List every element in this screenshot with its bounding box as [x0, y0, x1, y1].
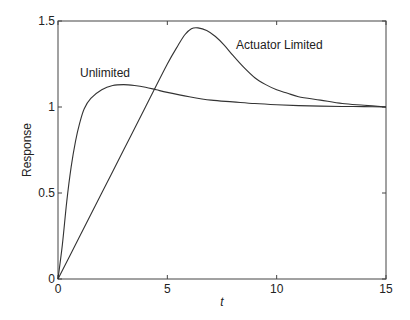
x-axis-label: t [220, 295, 224, 309]
response-chart: 05101500.511.5 Unlimited Actuator Limite… [0, 0, 410, 320]
plot-frame [58, 21, 386, 279]
y-tick-label: 1 [48, 100, 55, 114]
x-tick-label: 10 [270, 282, 284, 296]
x-tick-label: 0 [55, 282, 62, 296]
x-tick-label: 15 [379, 282, 393, 296]
axis-ticks: 05101500.511.5 [38, 14, 393, 296]
x-tick-label: 5 [164, 282, 171, 296]
annotation-actuator-limited: Actuator Limited [236, 38, 323, 52]
y-tick-label: 0 [48, 272, 55, 286]
y-tick-label: 0.5 [38, 186, 55, 200]
y-tick-label: 1.5 [38, 14, 55, 28]
annotation-unlimited: Unlimited [80, 66, 130, 80]
y-axis-label: Response [20, 123, 34, 177]
